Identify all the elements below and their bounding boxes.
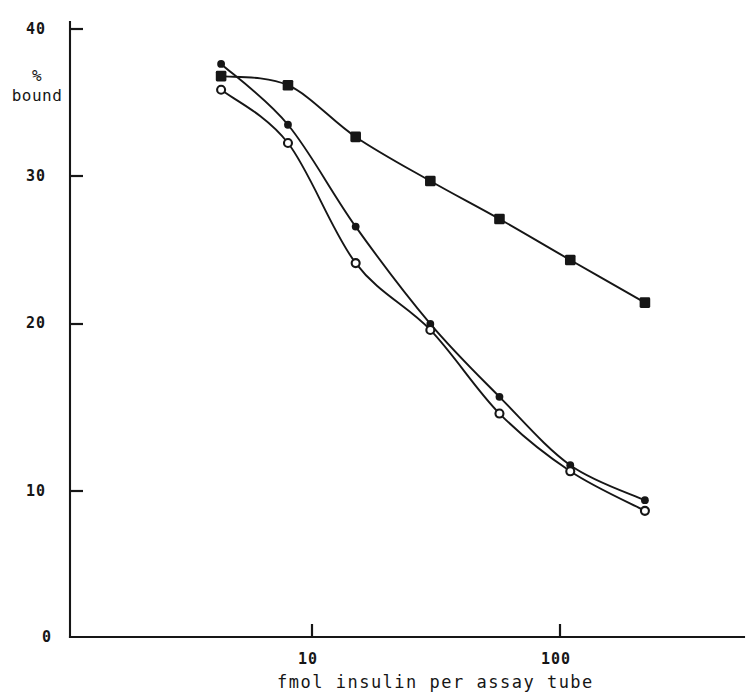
marker-open-circle (566, 467, 574, 475)
marker-filled-circle (217, 60, 225, 68)
marker-open-circle (352, 259, 360, 267)
marker-filled-square (640, 297, 651, 308)
marker-filled-circle (352, 223, 360, 231)
marker-filled-square (350, 132, 361, 143)
curve-filled-circle-series (221, 64, 645, 500)
marker-filled-square (283, 80, 294, 91)
marker-open-circle (284, 139, 292, 147)
marker-filled-square (425, 176, 436, 187)
marker-open-circle (217, 86, 225, 94)
marker-filled-circle (284, 121, 292, 129)
marker-open-circle (495, 410, 503, 418)
marker-filled-square (565, 255, 576, 266)
marker-filled-square (216, 71, 227, 82)
series-layer (216, 60, 650, 515)
marker-filled-circle (641, 496, 649, 504)
curve-filled-square-series (221, 76, 645, 302)
marker-filled-circle (496, 393, 504, 401)
marker-open-circle (641, 507, 649, 515)
marker-open-circle (426, 326, 434, 334)
marker-filled-square (494, 214, 505, 225)
figure-canvas: 40 30 20 10 0 % bound 10 100 fmol insuli… (0, 0, 746, 698)
curve-open-circle-series (221, 90, 645, 511)
plot-area (0, 0, 746, 698)
